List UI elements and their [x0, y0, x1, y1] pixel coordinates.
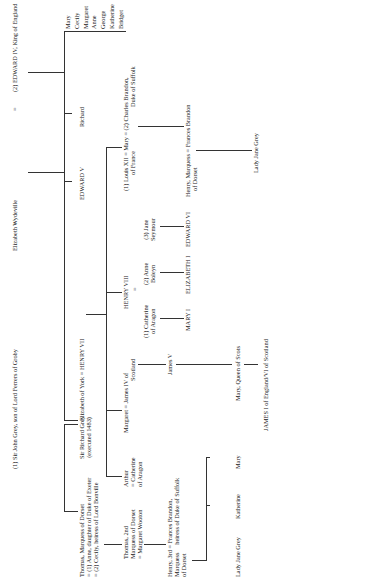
elizabeth-wydeville: Elizabeth Wydeville	[11, 200, 18, 251]
line	[160, 226, 184, 227]
line	[138, 364, 166, 365]
line	[64, 31, 126, 32]
thomas-marquess: Thomas, Marquess of Dorset= (1) Anne, da…	[78, 478, 100, 577]
edward-iv: (2) EDWARD IV, King of England	[11, 4, 18, 92]
line	[176, 364, 232, 365]
line	[86, 314, 106, 315]
richard: Richard	[78, 107, 85, 127]
line	[28, 72, 64, 73]
child-katherine: Katherine	[234, 494, 241, 519]
line	[106, 476, 122, 477]
margaret-james-iv: Margaret = James IV ofScotland	[122, 359, 136, 433]
henry-3rd-frances: Henry, 3rd = Frances Brandon,Marquess he…	[166, 478, 188, 577]
edward-v: EDWARD V	[78, 167, 85, 200]
elizabeth-i: ELIZABETH I	[184, 256, 191, 294]
child-lady-jane-grey: Lady Jane Grey	[234, 537, 241, 577]
child-mary: Mary	[234, 455, 241, 469]
line	[64, 424, 78, 425]
line	[106, 292, 122, 293]
line	[206, 457, 207, 561]
mary-tudor-marriages: (1) Louis XII = Mary = (2) Charles Brand…	[122, 66, 136, 191]
mary-queen-of-scots: Mary, Queen of Scots	[234, 346, 241, 401]
arthur: Arthur= Catherineof Aragon	[122, 457, 144, 487]
line	[196, 150, 252, 151]
line	[106, 410, 122, 411]
line	[206, 457, 210, 458]
line	[160, 318, 184, 319]
line	[192, 560, 206, 561]
james-i: JAMES I of England/VI of Scotland	[262, 339, 269, 431]
elizabeth-york-henry-vii: Elizabeth of York = HENRY VII	[78, 339, 85, 421]
sisters-list: MaryCecilyMargaretAnneGeorgeKatherineBri…	[64, 4, 126, 29]
sir-richard-grey: Sir Richard Grey(executed 1483)	[78, 416, 92, 459]
line	[104, 544, 122, 545]
wife-jane-seymour: (3) JaneSeymour	[142, 218, 156, 241]
henry-viii: HENRY VIII	[122, 276, 129, 309]
mary-i: MARY I	[184, 309, 191, 331]
line	[64, 424, 65, 512]
edward-vi: EDWARD VI	[184, 212, 191, 247]
family-tree-diagram: (1) Sir John Grey, son of Lord Ferrers o…	[0, 0, 367, 581]
line	[64, 420, 78, 421]
james-v: James V	[166, 354, 173, 375]
line	[64, 511, 78, 512]
sir-john-grey: (1) Sir John Grey, son of Lord Ferrers o…	[11, 349, 18, 469]
line	[64, 181, 72, 182]
line	[144, 544, 166, 545]
line	[244, 364, 258, 365]
equals-2: =	[11, 107, 18, 111]
lady-jane-grey-right: Lady Jane Grey	[252, 133, 259, 173]
thomas-2nd: Thomas, 2ndMarquess of Dorset= Margaret …	[122, 509, 144, 559]
line	[28, 172, 64, 173]
line	[206, 505, 210, 506]
line	[106, 147, 122, 148]
line	[160, 272, 184, 273]
wife-catherine: (1) Catherineof Aragon	[142, 305, 156, 338]
henry-viii-equals: =	[131, 287, 138, 291]
line	[138, 126, 184, 127]
line	[64, 113, 72, 114]
line	[106, 147, 107, 477]
line	[64, 31, 65, 421]
wife-anne-boleyn: (2) AnneBoleyn	[142, 263, 156, 285]
